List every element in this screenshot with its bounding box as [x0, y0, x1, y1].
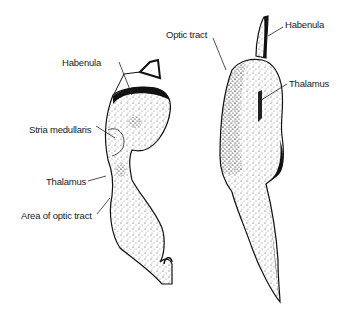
label-left-thalamus: Thalamus [46, 177, 86, 187]
drawing-canvas [0, 0, 343, 313]
anatomy-figure: Habenula Stria medullaris Thalamus Area … [0, 0, 343, 313]
thalamus-dark-area [128, 116, 142, 128]
label-right-thalamus: Thalamus [289, 79, 329, 89]
label-stria-medullaris: Stria medullaris [29, 125, 91, 135]
label-area-of-optic-tract: Area of optic tract [21, 211, 92, 221]
thalamus-dark-area-lower [116, 163, 126, 177]
label-left-habenula: Habenula [62, 58, 101, 68]
pineal-stalk [140, 60, 160, 78]
left-specimen [88, 60, 172, 284]
thalamus-streak [258, 90, 262, 122]
label-optic-tract: Optic tract [166, 30, 207, 40]
right-specimen [213, 16, 287, 302]
label-right-habenula: Habenula [285, 20, 324, 30]
